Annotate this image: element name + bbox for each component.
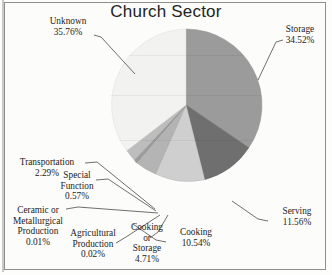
label-ceramic-line2: Metallurgical — [5, 216, 71, 227]
label-transportation-name: Transportation — [9, 157, 85, 168]
label-serving-name: Serving — [268, 206, 326, 217]
pie-slices — [112, 29, 262, 181]
label-special-function-value: 0.57% — [55, 191, 99, 202]
label-serving-value: 11.56% — [268, 217, 326, 228]
label-special-function-line2: Function — [55, 181, 99, 192]
label-cooking-or-storage-line2: or — [121, 233, 173, 244]
label-agricultural-production: Agricultural Production 0.02% — [62, 228, 124, 260]
label-cooking-name: Cooking — [168, 227, 224, 238]
label-ceramic-line1: Ceramic or — [5, 205, 71, 216]
label-cooking-or-storage-value: 4.71% — [121, 254, 173, 265]
label-transportation-value: 2.29% — [9, 168, 85, 179]
label-storage: Storage 34.52% — [272, 24, 328, 45]
label-cooking-or-storage-line3: Storage — [121, 243, 173, 254]
label-ceramic-line3: Production — [5, 226, 71, 237]
label-ceramic-value: 0.01% — [5, 237, 71, 248]
label-cooking-value: 10.54% — [168, 238, 224, 249]
leader-special-function — [96, 179, 156, 211]
label-storage-value: 34.52% — [272, 35, 328, 46]
leader-ceramic — [66, 207, 158, 213]
label-unknown-value: 35.76% — [30, 27, 106, 38]
label-agricultural-line1: Agricultural — [62, 228, 124, 239]
label-storage-name: Storage — [272, 24, 328, 35]
label-transportation: Transportation 2.29% — [9, 157, 85, 178]
label-cooking: Cooking 10.54% — [168, 227, 224, 248]
label-cooking-or-storage: Cooking or Storage 4.71% — [121, 222, 173, 264]
leader-serving — [232, 201, 268, 221]
label-unknown-name: Unknown — [30, 16, 106, 27]
label-serving: Serving 11.56% — [268, 206, 326, 227]
label-agricultural-line2: Production — [62, 239, 124, 250]
pie-canvas: Unknown 35.76% Storage 34.52% Serving 11… — [0, 0, 332, 275]
label-ceramic-metallurgical-production: Ceramic or Metallurgical Production 0.01… — [5, 205, 71, 247]
label-agricultural-value: 0.02% — [62, 249, 124, 260]
pie-chart-figure: Church Sector — [0, 0, 332, 275]
leader-storage — [258, 40, 283, 80]
label-cooking-or-storage-line1: Cooking — [121, 222, 173, 233]
label-unknown: Unknown 35.76% — [30, 16, 106, 37]
